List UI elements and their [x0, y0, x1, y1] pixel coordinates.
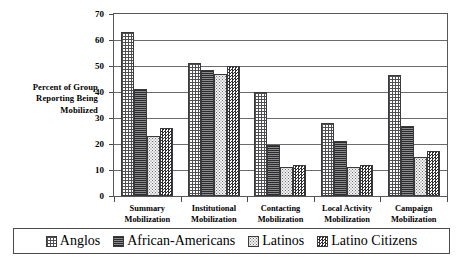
legend-label: Latino Citizens: [331, 234, 417, 248]
bar: [214, 74, 227, 196]
y-axis-tick-label: 50: [78, 62, 104, 71]
y-axis-tick-label: 60: [78, 36, 104, 45]
bar-group: [114, 14, 181, 196]
bar: [293, 165, 306, 196]
legend-swatch: [113, 236, 124, 247]
x-axis-tick: [447, 197, 448, 202]
legend-item: Latino Citizens: [317, 234, 417, 248]
legend-label: African-Americans: [127, 234, 235, 248]
x-axis-category-label-line: Mobilization: [369, 214, 459, 225]
plot-area: [113, 13, 448, 197]
x-axis-tick: [314, 197, 315, 202]
bar: [227, 66, 240, 196]
bar: [347, 167, 360, 196]
legend-swatch: [248, 236, 259, 247]
bar: [121, 32, 134, 196]
bar: [414, 157, 427, 196]
bar: [201, 70, 214, 196]
x-axis-tick: [181, 197, 182, 202]
bar-group: [314, 14, 381, 196]
legend-item: Latinos: [248, 234, 304, 248]
y-axis-tick-label: 30: [78, 114, 104, 123]
y-axis-tick-label: 70: [78, 10, 104, 19]
bar: [188, 63, 201, 196]
legend-item: Anglos: [46, 234, 100, 248]
bar: [254, 92, 267, 196]
bar: [388, 75, 401, 196]
legend-swatch: [317, 236, 328, 247]
bar: [267, 145, 280, 196]
y-axis-tick-label: 20: [78, 140, 104, 149]
bar: [280, 167, 293, 196]
bar: [360, 165, 373, 196]
bar: [334, 141, 347, 196]
legend-label: Anglos: [60, 234, 100, 248]
bar: [401, 126, 414, 196]
legend-label: Latinos: [262, 234, 304, 248]
bar-group: [380, 14, 447, 196]
y-axis-tick-label: 10: [78, 166, 104, 175]
y-axis-tick-label: 40: [78, 88, 104, 97]
bar-group: [247, 14, 314, 196]
x-axis-category-label-line: Campaign: [369, 203, 459, 214]
bar: [160, 128, 173, 196]
x-axis-tick: [114, 197, 115, 202]
legend-swatch: [46, 236, 57, 247]
chart-legend: AnglosAfrican-AmericansLatinosLatino Cit…: [13, 228, 450, 254]
bar: [427, 151, 440, 197]
x-axis-tick: [380, 197, 381, 202]
bar-chart: Percent of Group Reporting Being Mobiliz…: [0, 0, 464, 265]
bar: [134, 89, 147, 196]
bar: [321, 123, 334, 196]
legend-item: African-Americans: [113, 234, 235, 248]
y-axis-tick-label: 0: [78, 192, 104, 201]
bar: [147, 136, 160, 196]
x-axis-category-label: CampaignMobilization: [369, 203, 459, 225]
x-axis-tick: [247, 197, 248, 202]
bar-group: [181, 14, 248, 196]
